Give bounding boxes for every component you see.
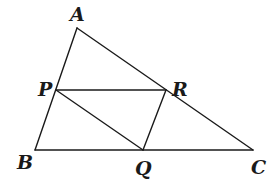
label-p: P xyxy=(37,78,53,100)
segment-qr xyxy=(143,90,166,150)
segment-ac xyxy=(77,28,253,150)
label-a: A xyxy=(68,3,85,25)
segment-pq xyxy=(56,90,143,150)
label-b: B xyxy=(16,151,33,173)
triangle-diagram: A P B Q C R xyxy=(0,0,277,186)
label-c: C xyxy=(251,156,266,178)
label-r: R xyxy=(171,78,188,100)
label-q: Q xyxy=(135,157,152,179)
